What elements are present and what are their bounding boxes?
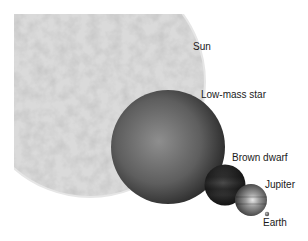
brown-dwarf-label: Brown dwarf bbox=[232, 152, 288, 163]
diagram-canvas bbox=[0, 0, 308, 241]
sun-label: Sun bbox=[193, 41, 211, 52]
jupiter-label: Jupiter bbox=[265, 179, 295, 190]
jupiter-body bbox=[235, 184, 267, 216]
earth-body bbox=[265, 212, 269, 216]
low-mass-star-label: Low-mass star bbox=[201, 89, 266, 100]
earth-label: Earth bbox=[263, 217, 287, 228]
size-comparison-diagram: Sun Low-mass star Brown dwarf Jupiter Ea… bbox=[0, 0, 308, 241]
